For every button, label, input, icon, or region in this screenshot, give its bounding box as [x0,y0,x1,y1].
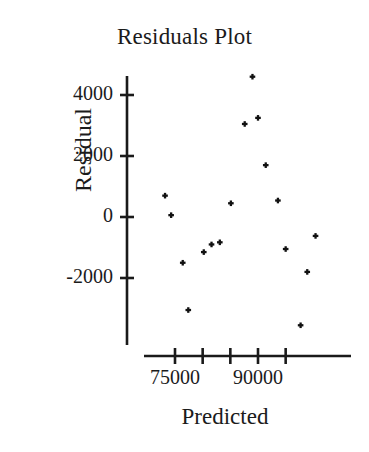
data-point [250,74,256,80]
data-point [162,193,168,199]
y-tick-label: -2000 [41,265,113,288]
marker-vertical-arm [230,200,232,206]
marker-vertical-arm [182,260,184,266]
y-tick-label: 2000 [41,143,113,166]
data-point [209,242,215,248]
y-tick-label: 0 [41,204,113,227]
marker-vertical-arm [210,242,212,248]
data-point [180,260,186,266]
data-point [217,240,223,246]
data-point [298,322,304,328]
data-point [242,121,248,127]
y-tick-label: 4000 [41,82,113,105]
data-point [228,200,234,206]
marker-vertical-arm [244,121,246,127]
data-point [275,198,281,204]
marker-vertical-arm [277,198,279,204]
data-point [255,115,261,121]
marker-vertical-arm [164,193,166,199]
marker-vertical-arm [299,322,301,328]
marker-vertical-arm [219,240,221,246]
tick-marks [120,95,286,364]
data-point [201,249,207,255]
data-point [304,269,310,275]
data-point [263,162,269,168]
marker-vertical-arm [314,233,316,239]
x-tick-label: 90000 [218,366,298,389]
residuals-plot-figure: Residuals Plot Residual Predicted 400020… [0,0,369,452]
data-point [168,212,174,218]
marker-vertical-arm [285,246,287,252]
data-point [313,233,319,239]
marker-vertical-arm [306,269,308,275]
data-point-series [162,74,318,328]
marker-vertical-arm [257,115,259,121]
x-tick-label: 75000 [135,366,215,389]
marker-vertical-arm [170,212,172,218]
marker-vertical-arm [203,249,205,255]
marker-vertical-arm [265,162,267,168]
data-point [185,307,191,313]
axis-lines [127,76,351,356]
data-point [283,246,289,252]
marker-vertical-arm [187,307,189,313]
marker-vertical-arm [251,74,253,80]
